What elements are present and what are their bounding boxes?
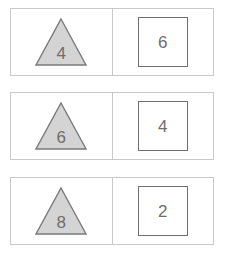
square-value-row-1: 6 (158, 34, 167, 51)
shape-pairs-board: 4 6 6 4 (0, 0, 226, 260)
triangle-cell-row-2[interactable]: 6 (11, 93, 113, 159)
pair-card-row-1[interactable]: 4 6 (10, 8, 214, 76)
square-value-row-3: 2 (158, 203, 167, 220)
square-cell-row-1[interactable]: 6 (113, 9, 214, 75)
triangle-shape-row-2: 6 (33, 100, 89, 152)
square-shape-row-3: 2 (138, 186, 188, 236)
pair-card-row-2[interactable]: 6 4 (10, 92, 214, 160)
square-shape-row-2: 4 (138, 101, 188, 151)
triangle-value-row-2: 6 (33, 100, 89, 152)
triangle-cell-row-3[interactable]: 8 (11, 178, 113, 244)
square-shape-row-1: 6 (138, 17, 188, 67)
triangle-value-row-3: 8 (33, 185, 89, 237)
triangle-cell-row-1[interactable]: 4 (11, 9, 113, 75)
triangle-value-row-1: 4 (33, 16, 89, 68)
square-cell-row-3[interactable]: 2 (113, 178, 214, 244)
square-cell-row-2[interactable]: 4 (113, 93, 214, 159)
square-value-row-2: 4 (158, 118, 167, 135)
triangle-shape-row-3: 8 (33, 185, 89, 237)
triangle-shape-row-1: 4 (33, 16, 89, 68)
pair-card-row-3[interactable]: 8 2 (10, 177, 214, 245)
